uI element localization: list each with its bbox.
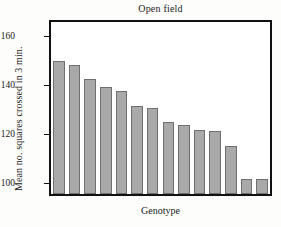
bar [84, 79, 96, 194]
bar [241, 179, 253, 194]
bar [209, 131, 221, 194]
bar [178, 125, 190, 194]
bar [116, 91, 128, 194]
bar [147, 108, 159, 194]
bar [194, 130, 206, 194]
plot-area [51, 22, 270, 194]
y-tick-label: 160 [0, 31, 15, 41]
plot-frame [49, 20, 272, 196]
chart-title: Open field [49, 3, 272, 14]
bar [225, 146, 237, 194]
bar [256, 179, 268, 194]
y-tick-label: 140 [0, 80, 15, 90]
bar [100, 87, 112, 194]
bar [53, 61, 65, 194]
y-tick-label: 100 [0, 178, 15, 188]
chart-figure: Open field Mean no. squares crossed in 3… [0, 0, 281, 227]
y-axis-ticks: 160140120100 [0, 0, 49, 227]
y-tick-label: 120 [0, 129, 15, 139]
bar [131, 106, 143, 194]
bar [69, 65, 81, 194]
x-axis-label: Genotype [49, 205, 272, 216]
bar [163, 122, 175, 194]
